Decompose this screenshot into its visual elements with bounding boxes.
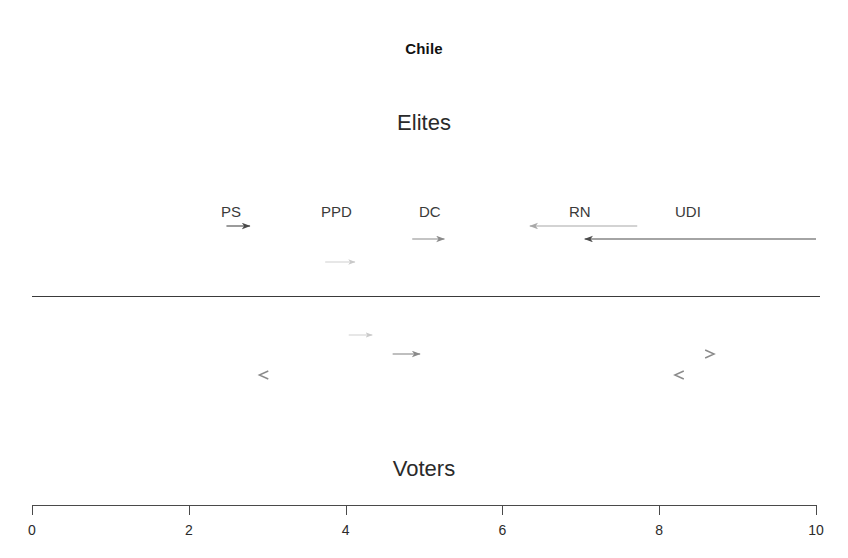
axis-tick-label-6: 6 bbox=[498, 522, 506, 538]
elites-voters-divider bbox=[32, 296, 820, 297]
shift-marker-udi bbox=[705, 350, 714, 358]
axis-tick-2 bbox=[189, 505, 190, 515]
shift-marker-rn bbox=[675, 371, 684, 379]
axis-tick-0 bbox=[32, 505, 33, 515]
axis-tick-label-2: 2 bbox=[185, 522, 193, 538]
axis-tick-6 bbox=[502, 505, 503, 515]
axis-tick-label-4: 4 bbox=[342, 522, 350, 538]
axis-tick-4 bbox=[346, 505, 347, 515]
axis-tick-label-10: 10 bbox=[808, 522, 824, 538]
elite-arrows bbox=[226, 226, 816, 262]
chart-title: Chile bbox=[0, 40, 848, 57]
axis-line bbox=[32, 505, 816, 506]
marker-heads bbox=[259, 350, 714, 379]
party-label-rn: RN bbox=[569, 203, 591, 220]
shift-marker-ps bbox=[259, 371, 268, 379]
band-label-voters: Voters bbox=[0, 456, 848, 482]
voter-arrows bbox=[349, 335, 420, 354]
axis-tick-8 bbox=[659, 505, 660, 515]
party-label-ppd: PPD bbox=[321, 203, 352, 220]
party-label-dc: DC bbox=[419, 203, 441, 220]
axis-tick-10 bbox=[816, 505, 817, 515]
x-axis: 0246810 bbox=[0, 498, 848, 558]
party-label-ps: PS bbox=[221, 203, 241, 220]
axis-tick-label-8: 8 bbox=[655, 522, 663, 538]
chart-canvas: Chile Elites PS PPD DC RN UDI Voters bbox=[0, 0, 848, 558]
axis-tick-label-0: 0 bbox=[28, 522, 36, 538]
band-label-elites: Elites bbox=[0, 110, 848, 136]
party-label-udi: UDI bbox=[675, 203, 701, 220]
